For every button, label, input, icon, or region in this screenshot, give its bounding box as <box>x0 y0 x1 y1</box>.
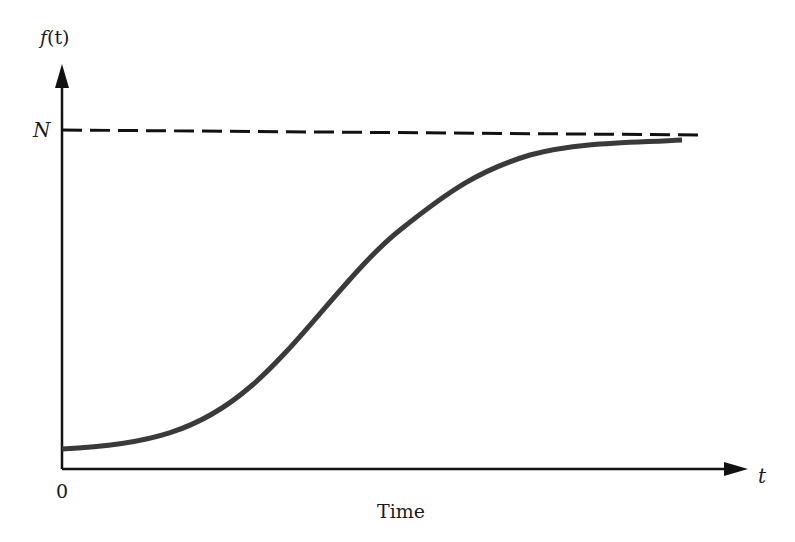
x-axis-arrow-icon <box>724 462 748 476</box>
y-axis-label: f(t) <box>40 26 70 48</box>
asymptote-line <box>62 130 702 135</box>
chart-canvas <box>0 0 795 542</box>
x-axis-symbol: t <box>758 464 766 488</box>
logistic-chart: f(t) N 0 t Time <box>0 0 795 542</box>
logistic-curve <box>62 140 682 449</box>
asymptote-label: N <box>33 118 51 142</box>
y-axis-arrow-icon <box>55 64 69 88</box>
origin-label: 0 <box>56 480 68 502</box>
x-axis-title: Time <box>377 500 425 522</box>
